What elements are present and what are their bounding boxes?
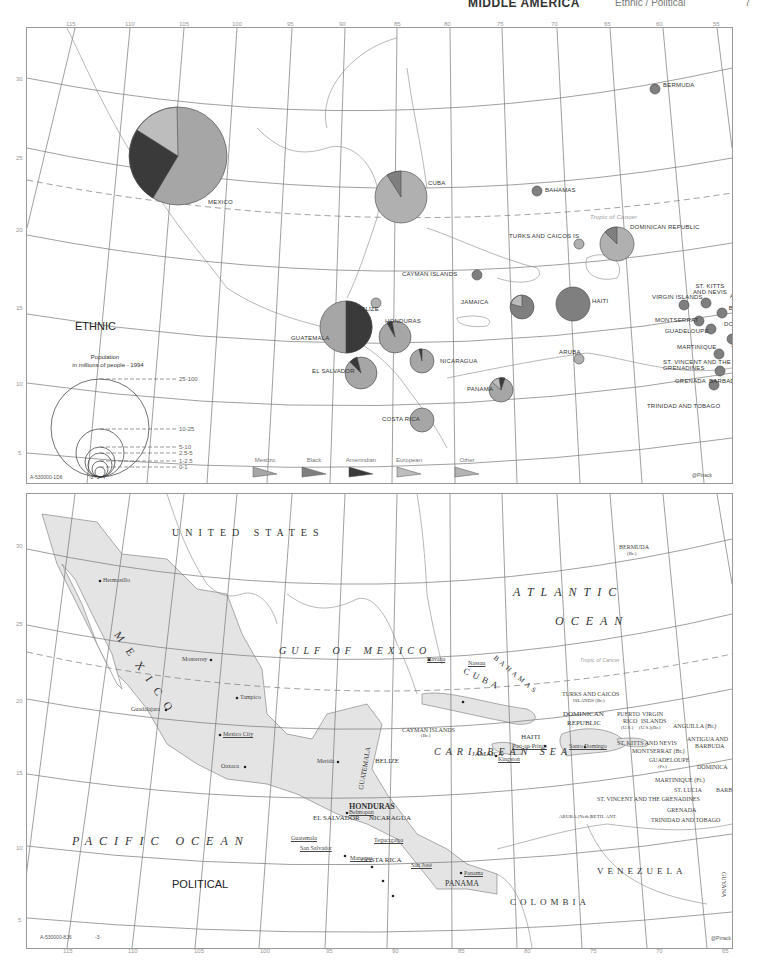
pie-jamaica — [510, 295, 534, 319]
political-map: PACIFIC OCEAN GULF OF MEXICO ATLANTIC OC… — [26, 493, 733, 949]
lat-tick: 30 — [16, 543, 23, 549]
city-monterrey: Monterrey — [182, 656, 207, 662]
country-dominican-2: REPUBLIC — [567, 719, 601, 727]
lon-tick: 100 — [260, 948, 270, 954]
country-guyana: GUYANA — [721, 872, 727, 897]
tropic-of-cancer-label: Tropic of Cancer — [580, 657, 620, 663]
political-map-title: POLITICAL — [172, 878, 228, 890]
label-st-kitts: ST. KITTS AND NEVIS — [691, 283, 729, 295]
city-nassau: Nassau — [468, 660, 485, 666]
lon-tick: 90 — [392, 948, 399, 954]
city-san-salvador: San Salvador — [300, 845, 332, 851]
island-st-kitts: ST. KITTS AND NEVIS — [617, 740, 677, 746]
label-guatemala: GUATEMALA — [291, 335, 329, 341]
city-hermosillo: Hermosillo — [103, 577, 130, 583]
island-st-vincent: ST. VINCENT AND THE GRENADINES — [597, 796, 700, 802]
country-haiti: HAITI — [521, 733, 540, 741]
city-havana: Havana — [427, 656, 445, 662]
label-antigua: ANTIGUA AND BARBUDA — [727, 293, 733, 311]
label-bahamas: BAHAMAS — [545, 187, 576, 193]
island-bermuda-sov: (Br.) — [627, 551, 636, 556]
city-kingston: Kingston — [498, 756, 520, 762]
label-el-salvador: EL SALVADOR — [312, 368, 355, 374]
island-bermuda: BERMUDA — [619, 544, 649, 550]
city-santo-domingo: Santo Domingo — [569, 743, 607, 749]
label-dominica: DOMINICA — [724, 321, 733, 327]
legend-european: European — [389, 457, 429, 463]
island-turks: TURKS AND CAICOS — [562, 691, 619, 697]
lon-tick: 85 — [458, 948, 465, 954]
population-scale-circles — [51, 379, 149, 477]
scale-class: 10-25 — [179, 426, 194, 432]
pie-cuba — [375, 171, 427, 223]
island-anguilla: ANGUILLA (Br.) — [673, 723, 716, 729]
scale-class: 2.5-5 — [179, 450, 193, 456]
city-belmopan: Belmopan — [349, 809, 374, 815]
pie-honduras — [379, 321, 411, 353]
lat-tick: 25 — [16, 621, 23, 627]
label-st-vincent: ST. VINCENT AND THE GRENADINES — [663, 359, 733, 371]
label-haiti: HAITI — [592, 298, 608, 304]
island-virgin-3: (U.S.)(Br.) — [639, 725, 661, 730]
island-virgin-1: VIRGIN — [642, 711, 663, 717]
label-aruba: ARUBA — [559, 349, 581, 355]
island-cayman-sov: (Br.) — [421, 733, 430, 738]
lon-tick: 70 — [656, 948, 663, 954]
island-martinique: MARTINIQUE (Fr.) — [655, 777, 705, 783]
island-antigua-2: BARBUDA — [695, 743, 724, 749]
country-dominican-1: DOMINICAN — [563, 710, 604, 718]
map-code-2: -3 — [95, 934, 99, 940]
city-san-jose: San José — [411, 862, 432, 868]
cuba-land — [422, 693, 535, 724]
map-code-2: -2 -1 -4 — [89, 474, 105, 480]
lon-tick: 95 — [326, 948, 333, 954]
island-trinidad: TRINIDAD AND TOBAGO — [651, 817, 720, 823]
label-costa-rica: COSTA RICA — [382, 416, 420, 422]
publisher-mark: @Pinack — [711, 935, 731, 941]
label-turks: TURKS AND CAICOS IS — [509, 233, 579, 239]
population-legend-title: Population — [65, 354, 145, 360]
pie-dominican-republic — [600, 227, 634, 261]
country-el-salvador: EL SALVADOR — [313, 814, 360, 822]
lat-tick: 10 — [16, 845, 23, 851]
lon-tick: 65 — [722, 948, 729, 954]
legend-mestizo: Mestizo — [245, 457, 285, 463]
legend-amerindian: Amerindian — [341, 457, 381, 463]
scale-class: 25-100 — [179, 376, 198, 382]
page-number: 7 — [745, 0, 751, 8]
map-code: A-530000-8J6 — [40, 934, 71, 940]
lon-tick: 105 — [194, 948, 204, 954]
ocean-atlantic-1: ATLANTIC — [513, 585, 623, 600]
label-guadeloupe: GUADELOUPE — [665, 328, 709, 334]
city-tegucigalpa: Tegucigalpa — [374, 837, 403, 843]
legend-black: Black — [294, 457, 334, 463]
lat-tick: 5 — [18, 917, 21, 923]
city-merida: Merida — [317, 758, 334, 764]
page-header: MIDDLE AMERICA Ethnic / Political 7 — [0, 0, 758, 16]
label-martinique: MARTINIQUE — [677, 344, 717, 350]
label-mexico: MEXICO — [208, 199, 233, 205]
pie-nicaragua — [410, 349, 434, 373]
ocean-atlantic-2: OCEAN — [555, 614, 629, 629]
map-code: A-530000-1D6 — [30, 474, 63, 480]
publisher-mark: @Pinack — [692, 472, 712, 478]
pie-mexico — [129, 107, 227, 205]
scale-class: 0-1 — [179, 464, 188, 470]
island-grenada: GRENADA — [667, 807, 696, 813]
city-mexico-city: Mexico City — [223, 731, 253, 737]
lat-tick: 5 — [18, 450, 21, 456]
country-venezuela: VENEZUELA — [597, 866, 687, 876]
lat-tick: 15 — [16, 305, 23, 311]
lat-tick: 20 — [16, 698, 23, 704]
island-neth-ant: NETH. ANT. — [590, 814, 617, 819]
label-jamaica: JAMAICA — [461, 299, 488, 305]
label-cuba: CUBA — [428, 180, 445, 186]
label-montserrat: MONTSERRAT — [655, 317, 699, 323]
island-puerto-rico-1: PUERTO — [617, 711, 640, 717]
city-oaxaca: Oaxaca — [221, 763, 239, 769]
island-turks-2: ISLANDS (Br.) — [573, 698, 605, 703]
lat-tick: 20 — [16, 227, 23, 233]
country-colombia: COLOMBIA — [510, 897, 590, 907]
label-dominican-republic: DOMINICAN REPUBLIC — [630, 224, 700, 230]
island-guadeloupe: GUADELOUPE — [649, 757, 689, 763]
